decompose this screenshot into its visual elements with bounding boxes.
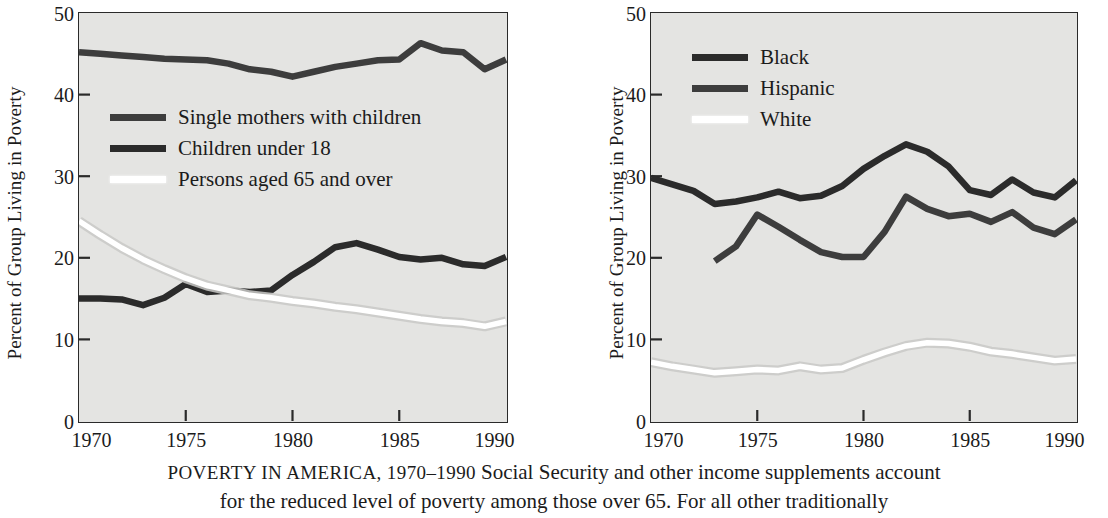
y-axis-tick-labels-right: 01020304050 bbox=[602, 0, 646, 460]
legend-label-single-mothers: Single mothers with children bbox=[178, 107, 421, 128]
legend-swatch-persons-65-and-over bbox=[110, 176, 166, 183]
x-axis-tick-labels-left: 19701975198019851990 bbox=[78, 428, 508, 458]
x-tick-right-1985: 1985 bbox=[950, 428, 990, 452]
y-tick-right-10: 10 bbox=[626, 330, 646, 350]
legend-label-hispanic: Hispanic bbox=[760, 78, 835, 99]
x-tick-right-1975: 1975 bbox=[738, 428, 778, 452]
caption-line-1: POVERTY IN AMERICA, 1970–1990 Social Sec… bbox=[0, 458, 1108, 487]
legend-label-persons-65-and-over: Persons aged 65 and over bbox=[178, 169, 393, 190]
x-tick-left-1970: 1970 bbox=[72, 428, 112, 452]
y-tick-right-40: 40 bbox=[626, 85, 646, 105]
x-tick-left-1975: 1975 bbox=[166, 428, 206, 452]
caption-body-first-line: Social Security and other income supplem… bbox=[481, 460, 941, 484]
y-tick-left-20: 20 bbox=[54, 248, 74, 268]
legend-swatch-single-mothers bbox=[110, 114, 166, 121]
y-tick-left-30: 30 bbox=[54, 167, 74, 187]
legend-item-persons-65-and-over: Persons aged 65 and over bbox=[110, 164, 421, 195]
y-tick-right-30: 30 bbox=[626, 167, 646, 187]
legend-item-hispanic: Hispanic bbox=[692, 73, 835, 104]
x-tick-left-1985: 1985 bbox=[380, 428, 420, 452]
legend-item-black: Black bbox=[692, 42, 835, 73]
legend-swatch-white bbox=[692, 116, 748, 123]
legend-right: Black Hispanic White bbox=[692, 42, 835, 135]
plot-area-left bbox=[78, 12, 508, 423]
x-axis-tick-labels-right: 19701975198019851990 bbox=[650, 428, 1078, 458]
y-tick-left-10: 10 bbox=[54, 330, 74, 350]
y-tick-left-50: 50 bbox=[54, 4, 74, 24]
caption-heading: POVERTY IN AMERICA, 1970–1990 bbox=[167, 462, 475, 483]
legend-label-black: Black bbox=[760, 47, 809, 68]
y-tick-left-40: 40 bbox=[54, 85, 74, 105]
x-tick-right-1990: 1990 bbox=[1045, 428, 1085, 452]
legend-item-children-under-18: Children under 18 bbox=[110, 133, 421, 164]
x-tick-right-1980: 1980 bbox=[844, 428, 884, 452]
x-tick-right-1970: 1970 bbox=[644, 428, 684, 452]
legend-label-children-under-18: Children under 18 bbox=[178, 138, 331, 159]
x-tick-left-1990: 1990 bbox=[475, 428, 515, 452]
legend-label-white: White bbox=[760, 109, 811, 130]
poverty-in-america-figure: Percent of Group Living in Poverty 01020… bbox=[0, 0, 1108, 518]
legend-swatch-black bbox=[692, 54, 748, 61]
y-axis-title-left: Percent of Group Living in Poverty bbox=[2, 8, 28, 438]
legend-left: Single mothers with children Children un… bbox=[110, 102, 421, 195]
legend-item-white: White bbox=[692, 104, 835, 135]
y-axis-tick-labels-left: 01020304050 bbox=[30, 0, 74, 460]
figure-caption: POVERTY IN AMERICA, 1970–1990 Social Sec… bbox=[0, 458, 1108, 518]
legend-swatch-children-under-18 bbox=[110, 145, 166, 152]
legend-item-single-mothers: Single mothers with children bbox=[110, 102, 421, 133]
legend-swatch-hispanic bbox=[692, 85, 748, 92]
series-canvas-left bbox=[79, 13, 508, 423]
x-tick-left-1980: 1980 bbox=[273, 428, 313, 452]
y-tick-right-20: 20 bbox=[626, 248, 646, 268]
y-tick-right-50: 50 bbox=[626, 4, 646, 24]
chart-panel-left: Percent of Group Living in Poverty 01020… bbox=[0, 0, 548, 460]
caption-line-2: for the reduced level of poverty among t… bbox=[0, 487, 1108, 515]
